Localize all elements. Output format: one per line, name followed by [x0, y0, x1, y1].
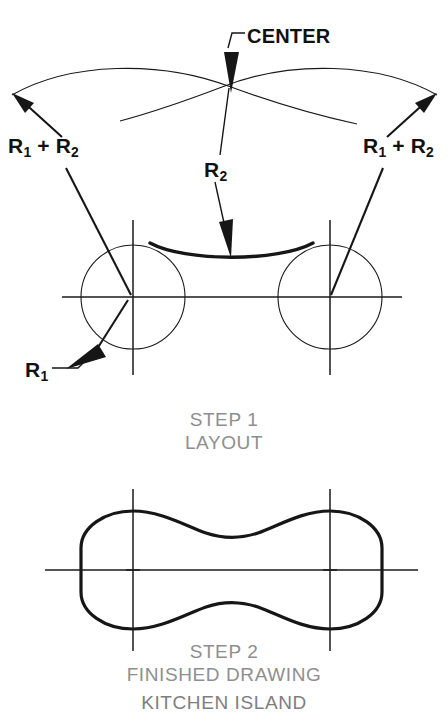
leader-r2-upper [220, 88, 229, 155]
label-r1-letter: R [25, 358, 40, 381]
construction-arc-left [12, 68, 357, 124]
label-right-r-second: R [411, 134, 426, 157]
leader-left-sum-lower [66, 168, 131, 295]
leader-right-sum-lower [331, 168, 383, 295]
label-right-r-first: R [363, 134, 378, 157]
label-r2-sub: 2 [219, 168, 227, 184]
arrowhead-left-sum [12, 93, 62, 137]
arrowhead-right-sum [387, 93, 437, 137]
label-right-sub-1: 1 [378, 144, 386, 160]
label-center: CENTER [247, 25, 330, 48]
label-r1: R1 [25, 358, 48, 382]
label-r2-letter: R [204, 158, 219, 181]
label-r2: R2 [204, 158, 227, 182]
construction-arc-right [120, 68, 437, 121]
drawing-canvas [0, 0, 448, 723]
label-left-plus: + [31, 134, 56, 157]
caption-step2-subtitle: FINISHED DRAWING [0, 664, 448, 686]
label-r1-sub: 1 [40, 368, 48, 384]
label-left-r-second: R [56, 134, 71, 157]
caption-step1-title: STEP 1 [0, 409, 448, 431]
leader-r1 [52, 300, 128, 369]
caption-step2-title: STEP 2 [0, 641, 448, 663]
label-r1-plus-r2-left: R1 + R2 [8, 134, 79, 158]
arrow-r2-to-curve [215, 182, 233, 258]
caption-step1-subtitle: LAYOUT [0, 432, 448, 454]
technical-drawing-figure: CENTER R1 + R2 R1 + R2 R2 R1 STEP 1 LAYO… [0, 0, 448, 723]
step1-layout-group [12, 33, 437, 375]
label-r1-plus-r2-right: R1 + R2 [363, 134, 434, 158]
step2-finished-group [45, 489, 418, 651]
label-right-sub-2: 2 [426, 144, 434, 160]
label-left-r-first: R [8, 134, 23, 157]
leader-center [224, 33, 245, 93]
label-left-sub-2: 2 [71, 144, 79, 160]
label-left-sub-1: 1 [23, 144, 31, 160]
label-right-plus: + [386, 134, 411, 157]
figure-title: KITCHEN ISLAND [0, 692, 448, 714]
